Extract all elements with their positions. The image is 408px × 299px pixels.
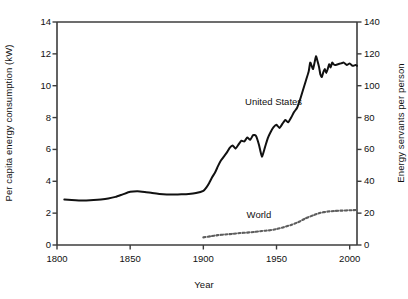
y-axis-left-title-text: Per capita energy consumption (kW) — [3, 44, 14, 201]
data-series — [64, 56, 357, 237]
y-axis-left-title: Per capita energy consumption (kW) — [0, 0, 16, 245]
series-annotation-world: World — [226, 209, 292, 220]
chart-figure: Per capita energy consumption (kW) Energ… — [0, 0, 408, 299]
y-tick-label-left: 4 — [24, 175, 51, 186]
y-tick-label-right: 140 — [364, 16, 394, 27]
y-axis-right-title-text: Energy servants per person — [395, 63, 406, 182]
y-tick-label-left: 2 — [24, 207, 51, 218]
y-tick-label-left: 8 — [24, 112, 51, 123]
y-axis-right-title: Energy servants per person — [392, 0, 408, 245]
y-tick-label-left: 10 — [24, 80, 51, 91]
y-tick-label-right: 120 — [364, 48, 394, 59]
y-tick-label-right: 40 — [364, 175, 394, 186]
y-tick-label-left: 0 — [24, 239, 51, 250]
y-tick-label-right: 80 — [364, 112, 394, 123]
x-tick-label: 1950 — [257, 253, 297, 264]
y-tick-label-left: 14 — [24, 16, 51, 27]
y-tick-label-left: 12 — [24, 48, 51, 59]
y-tick-label-right: 60 — [364, 143, 394, 154]
y-tick-label-right: 100 — [364, 80, 394, 91]
x-tick-label: 1850 — [110, 253, 150, 264]
x-axis-title: Year — [0, 279, 408, 290]
y-tick-label-left: 6 — [24, 143, 51, 154]
x-tick-label: 2000 — [330, 253, 370, 264]
series-line-united-states — [64, 56, 357, 200]
axis-frame — [57, 22, 357, 245]
x-tick-label: 1900 — [183, 253, 223, 264]
y-tick-label-right: 20 — [364, 207, 394, 218]
series-annotation-united-states: United States — [241, 96, 307, 107]
x-tick-label: 1800 — [37, 253, 77, 264]
y-tick-label-right: 0 — [364, 239, 394, 250]
